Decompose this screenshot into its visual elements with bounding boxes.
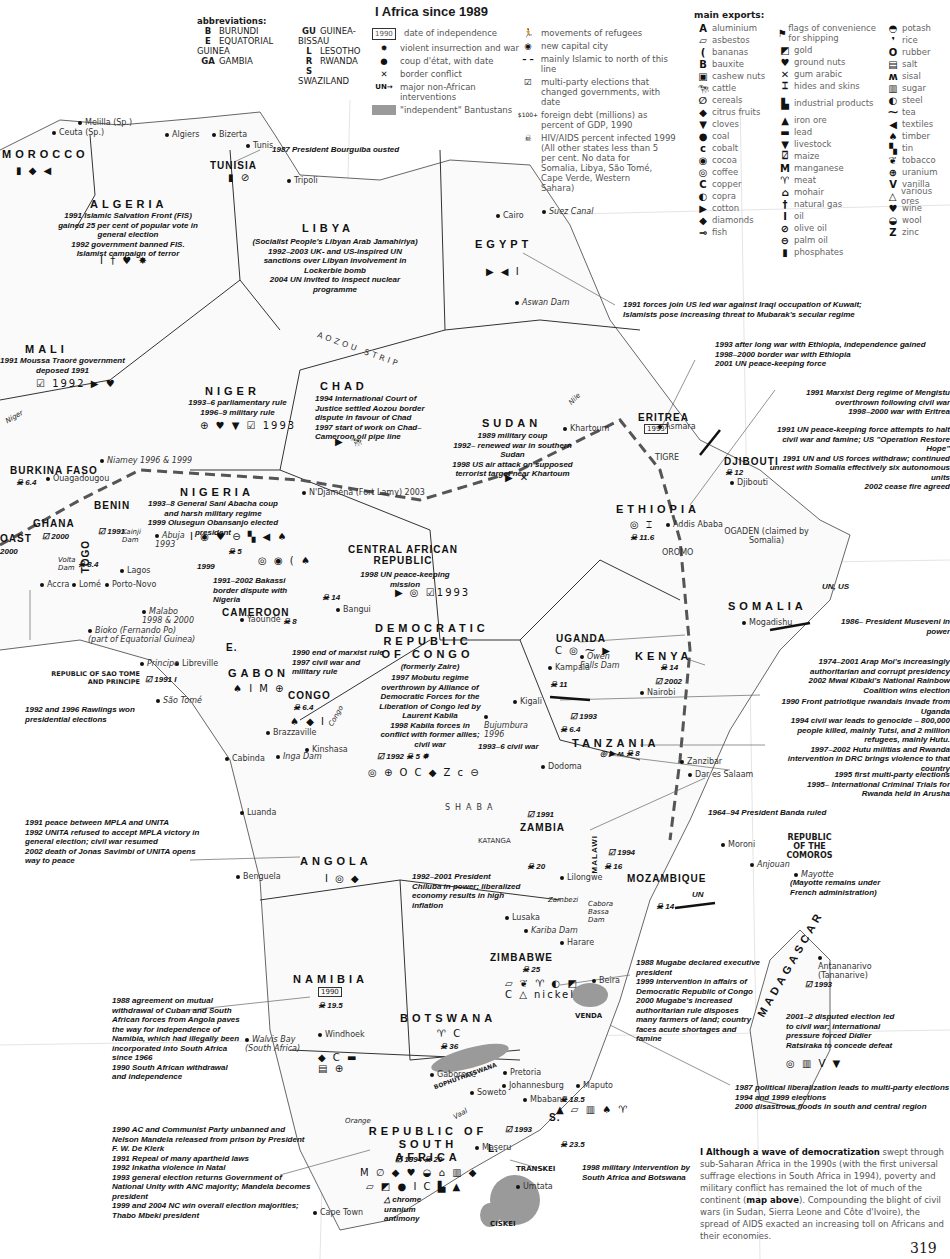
export-label: tea	[902, 107, 916, 117]
city-cairo: Cairo	[496, 211, 524, 220]
export-item: Bbauxite	[694, 58, 776, 70]
date-box-icon: 1990	[372, 28, 396, 40]
djibouti-hiv: ☠ 12	[725, 468, 743, 478]
export-item: Zzinc	[884, 226, 950, 238]
export-cloves-icon: ▼	[694, 119, 712, 130]
ethiopia-hiv: ☠ 11.6	[630, 533, 654, 543]
skull-icon: ☠	[515, 133, 541, 143]
export-label: textiles	[902, 119, 933, 129]
inga-dam: Inga Dam	[276, 752, 322, 761]
city-cabinda: Cabinda	[225, 754, 265, 763]
tigre-label: TIGRE	[655, 453, 679, 462]
city-lilongwe: Lilongwe	[560, 873, 602, 882]
drc-note: 1997 Mobutu regime overthrown by Allianc…	[375, 673, 485, 749]
export-manganese-icon: M	[776, 163, 794, 174]
congo-note: 1990 end of marxist rule 1997 civil war …	[292, 648, 387, 677]
country-eritrea: ERITREA	[638, 412, 689, 423]
export-cobalt-icon: c	[694, 143, 712, 154]
comoros-label: REPUBLIC OF THE COMOROS	[782, 833, 837, 860]
export-item: ◆citrus fruits	[694, 106, 776, 118]
city-cape-town: Cape Town	[313, 1208, 363, 1217]
burkina-hiv: ☠ 6.4	[16, 478, 36, 488]
export-cashew-nuts-icon: ▣	[694, 71, 712, 82]
country-drc: DEMOCRATIC REPUBLIC OF CONGO	[375, 622, 480, 661]
zambia-election: ☑ 1991	[527, 810, 554, 820]
sao-tome-island: São Tomé	[156, 696, 202, 705]
export-flags-of-convenience-for-shipping-icon: ⚑	[776, 28, 788, 39]
export-label: fish	[712, 227, 727, 237]
benin-election: ☑ 1991	[98, 527, 125, 537]
cameroon-exports: ◎ ◉ ( ♠	[258, 555, 312, 566]
export-item: ✕gum arabic	[776, 68, 884, 80]
export-potash-icon: ◓	[884, 23, 902, 34]
symbols-legend-2: 🏃movements of refugees ◉new capital city…	[515, 28, 685, 193]
export-bauxite-icon: B	[694, 59, 712, 70]
export-label: mohair	[794, 187, 824, 197]
angola-note: 1991 peace between MPLA and UNITA 1992 U…	[25, 818, 205, 866]
export-label: steel	[902, 95, 923, 105]
export-label: cereals	[712, 95, 742, 105]
shaba-label: SHABA	[445, 803, 498, 812]
coup-dot-icon: ●	[372, 56, 396, 66]
export-cattle-icon: 🐄	[694, 83, 712, 94]
export-aluminium-icon: A	[694, 23, 712, 34]
country-chad: CHAD	[320, 380, 368, 392]
export-label: coffee	[712, 167, 738, 177]
abbr-item: GUGUINEA-BISSAU	[298, 26, 367, 46]
drc-exports: ◎ ⊕ O C ◆ Z c ⊖	[368, 767, 481, 778]
export-coffee-icon: ◎	[694, 167, 712, 178]
export-label: manganese	[794, 163, 844, 173]
city-bujumbura: Bujumbura 1996	[484, 712, 532, 739]
export-item: ◐copra	[694, 190, 776, 202]
export-timber-icon: ♠	[884, 131, 902, 142]
export-cotton-icon: ▶	[694, 203, 712, 214]
city-malabo: Malabo 1998 & 2000	[142, 607, 197, 625]
car-hiv: ☠ 14	[322, 593, 340, 603]
export-label: palm oil	[794, 235, 828, 245]
country-cameroon: CAMEROON	[222, 607, 289, 618]
ethiopia-note: 1991 Marxist Derg regime of Mengistu ove…	[775, 388, 950, 417]
export-item: ▶cotton	[694, 202, 776, 214]
export-label: wool	[902, 215, 922, 225]
country-sudan: SUDAN	[482, 417, 541, 429]
burundi-hiv: ☠ 6.4	[560, 725, 580, 735]
country-mozambique: MOZAMBIQUE	[627, 873, 706, 884]
export-item: ◒wool	[884, 214, 950, 226]
cabora-bassa-label: Cabora Bassa Dam	[588, 900, 618, 924]
botswana-hiv: ☠ 36	[440, 1042, 458, 1052]
botswana-exports: ♈ C	[437, 1028, 462, 1039]
south-africa-ores: △ chrome uranium antimony	[384, 1195, 439, 1224]
export-label: cocoa	[712, 155, 737, 165]
export-item: ʍsisal	[884, 70, 950, 82]
ethiopia-exports: ◎ ⌶	[630, 519, 654, 531]
abbr-item: GAGAMBIA	[197, 56, 292, 66]
export-label: hides and skins	[794, 81, 860, 91]
export-label: tobacco	[902, 155, 936, 165]
kenya-note: 1974–2001 Arap Moi's increasingly author…	[790, 657, 950, 695]
tunisia-note: 1987 President Bourguiba ousted	[272, 145, 399, 155]
ghana-note: 1992 and 1996 Rawlings won presidential …	[25, 705, 165, 724]
country-somalia: SOMALIA	[728, 600, 807, 612]
city-antananarivo: Antananarivo (Tananarive)	[818, 953, 878, 980]
ballot-box-icon: ☑	[515, 77, 541, 107]
country-zimbabwe: ZIMBABWE	[490, 952, 553, 963]
export-item: Mmanganese	[776, 162, 884, 174]
export-item: ❦tobacco	[884, 154, 950, 166]
export-citrus-fruits-icon: ◆	[694, 107, 712, 118]
export-textiles-icon: ◀	[884, 119, 902, 130]
export-label: meat	[794, 175, 816, 185]
export-lead-icon: ▬	[776, 127, 794, 138]
export-item: Orubber	[884, 46, 950, 58]
city-moroni: Moroni	[721, 840, 755, 849]
namibia-note: 1988 agreement on mutual withdrawal of C…	[112, 996, 242, 1082]
country-morocco: MOROCCO	[2, 148, 89, 160]
ghana-election: ☑ 2000	[42, 532, 69, 542]
gabon-exports: ♠ I M ⊕	[233, 683, 285, 694]
export-vanilla-icon: V	[884, 179, 902, 190]
zambia-note: 1992–2001 President Chiluba in power; li…	[412, 872, 522, 910]
export-label: copper	[712, 179, 741, 189]
mayotte-note: (Mayotte remains under French administra…	[790, 878, 885, 897]
export-item: ▱asbestos	[694, 34, 776, 46]
city-accra: Accra	[40, 580, 69, 589]
export-item: ▤salt	[884, 58, 950, 70]
